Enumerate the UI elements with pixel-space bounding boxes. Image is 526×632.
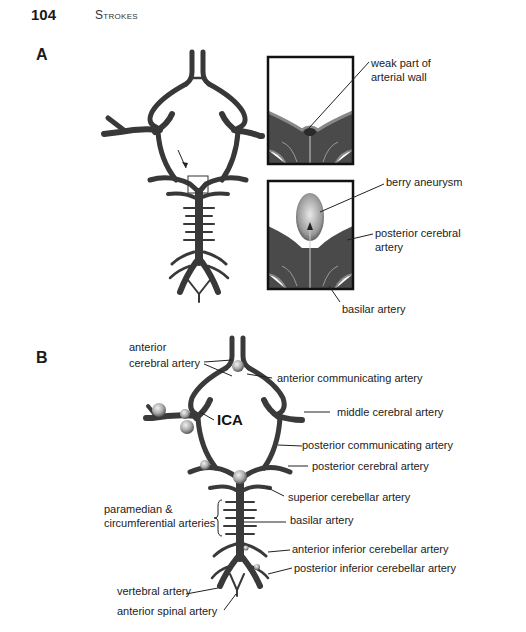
label-aca-line1: anterior: [129, 341, 166, 354]
label-sca: superior cerebellar artery: [288, 491, 410, 504]
circle-of-willis-diagram: [0, 0, 526, 632]
label-acom: anterior communicating artery: [277, 372, 423, 385]
inset-berry-aneurysm: [268, 181, 353, 289]
label-basilar-b: basilar artery: [290, 514, 354, 527]
label-vertebral: vertebral artery: [117, 585, 191, 598]
label-basilar-a: basilar artery: [342, 303, 406, 316]
label-aca-line2: cerebral artery: [129, 357, 200, 370]
label-paramedian-line2: circumferential arteries: [104, 517, 215, 530]
label-pca-a-line1: posterior cerebral: [375, 227, 461, 240]
label-spinal: anterior spinal artery: [117, 605, 217, 618]
label-weak-wall-line2: arterial wall: [371, 71, 427, 84]
label-ica: ICA: [217, 411, 243, 428]
inset-weak-wall: [268, 57, 353, 164]
label-paramedian-line1: paramedian &: [104, 503, 173, 516]
panel-a-arteries: [104, 52, 262, 302]
label-pca-b: posterior cerebral artery: [312, 460, 429, 473]
label-pica: posterior inferior cerebellar artery: [294, 562, 456, 575]
label-pcom: posterior communicating artery: [302, 439, 453, 452]
label-mca: middle cerebral artery: [337, 406, 443, 419]
label-aica: anterior inferior cerebellar artery: [292, 543, 449, 556]
label-weak-wall-line1: weak part of: [371, 57, 431, 70]
label-pca-a-line2: artery: [375, 241, 403, 254]
label-berry-aneurysm: berry aneurysm: [386, 176, 462, 189]
